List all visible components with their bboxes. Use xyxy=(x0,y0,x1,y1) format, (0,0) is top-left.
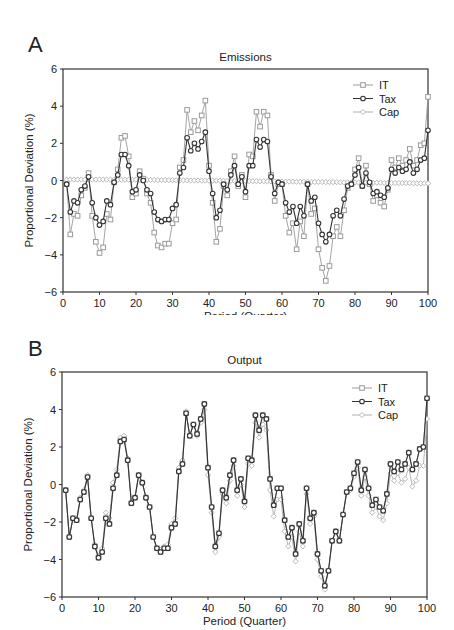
tax-marker xyxy=(370,503,375,508)
tax-marker xyxy=(348,486,353,491)
series-tax xyxy=(63,396,429,588)
y-tick-label: 4 xyxy=(50,404,56,416)
y-tick-label: −4 xyxy=(43,554,56,566)
tax-marker xyxy=(206,465,211,470)
tax-marker xyxy=(421,445,426,450)
cap-marker xyxy=(293,559,298,564)
tax-marker xyxy=(264,417,269,422)
tax-marker xyxy=(111,486,116,491)
tax-marker xyxy=(282,518,287,523)
series-it xyxy=(63,396,429,588)
tax-marker xyxy=(297,522,302,527)
tax-marker xyxy=(268,477,273,482)
tax-marker xyxy=(140,480,145,485)
cap-marker xyxy=(308,521,313,526)
tax-marker xyxy=(403,462,408,467)
tax-marker xyxy=(337,538,342,543)
legend-label-it: IT xyxy=(378,382,388,394)
tax-marker xyxy=(341,512,346,517)
tax-marker xyxy=(169,525,174,530)
tax-marker xyxy=(89,516,94,521)
tax-marker xyxy=(180,462,185,467)
tax-marker xyxy=(308,516,313,521)
tax-marker xyxy=(326,568,331,573)
tax-marker xyxy=(242,499,247,504)
tax-marker xyxy=(330,538,335,543)
tax-marker xyxy=(414,462,419,467)
tax-marker xyxy=(290,525,295,530)
panel-b: B Output−6−4−202460102030405060708090100… xyxy=(0,0,454,630)
tax-marker xyxy=(312,510,317,515)
cap-marker xyxy=(242,504,247,509)
cap-marker xyxy=(421,463,426,468)
tax-marker xyxy=(271,503,276,508)
tax-marker xyxy=(191,422,196,427)
tax-marker xyxy=(315,552,320,557)
legend-label-cap: Cap xyxy=(378,409,398,421)
cap-marker xyxy=(224,501,229,506)
tax-marker xyxy=(173,522,178,527)
cap-marker xyxy=(264,428,269,433)
tax-marker xyxy=(352,471,357,476)
x-tick-label: 90 xyxy=(384,602,396,614)
cap-marker xyxy=(410,484,415,489)
tax-marker xyxy=(301,538,306,543)
tax-marker xyxy=(220,488,225,493)
legend: ITTaxCap xyxy=(352,382,398,421)
tax-marker xyxy=(235,488,240,493)
y-tick-label: 6 xyxy=(50,366,56,378)
tax-marker xyxy=(410,467,415,472)
tax-marker xyxy=(114,473,119,478)
tax-marker xyxy=(195,432,200,437)
tax-marker xyxy=(385,492,390,497)
tax-marker xyxy=(319,568,324,573)
y-tick-label: −6 xyxy=(43,591,56,603)
cap-marker xyxy=(257,435,262,440)
tax-marker xyxy=(363,467,368,472)
tax-marker xyxy=(122,437,127,442)
x-tick-label: 70 xyxy=(311,602,323,614)
tax-marker xyxy=(253,413,258,418)
tax-marker xyxy=(224,495,229,500)
cap-marker xyxy=(235,493,240,498)
tax-marker xyxy=(279,486,284,491)
legend-cap-marker xyxy=(359,412,364,417)
tax-marker xyxy=(333,529,338,534)
cap-marker xyxy=(413,478,418,483)
tax-marker xyxy=(78,497,83,502)
x-tick-label: 60 xyxy=(275,602,287,614)
tax-marker xyxy=(63,488,68,493)
tax-marker xyxy=(366,486,371,491)
tax-marker xyxy=(388,462,393,467)
legend-label-tax: Tax xyxy=(378,396,396,408)
cap-marker xyxy=(271,514,276,519)
cap-marker xyxy=(103,510,108,515)
chart-title: Output xyxy=(227,354,262,366)
x-tick-label: 20 xyxy=(129,602,141,614)
tax-marker xyxy=(151,535,156,540)
tax-marker xyxy=(187,433,192,438)
tax-marker xyxy=(198,417,203,422)
tax-marker xyxy=(377,505,382,510)
cap-marker xyxy=(392,478,397,483)
tax-marker xyxy=(344,490,349,495)
tax-marker xyxy=(399,467,404,472)
legend-it-marker xyxy=(360,386,365,391)
tax-marker xyxy=(155,546,160,551)
tax-marker xyxy=(74,518,79,523)
tax-marker xyxy=(392,469,397,474)
cap-marker xyxy=(227,478,232,483)
tax-marker xyxy=(381,508,386,513)
cap-marker xyxy=(213,549,218,554)
tax-marker xyxy=(396,460,401,465)
tax-marker xyxy=(125,458,130,463)
cap-marker xyxy=(370,510,375,515)
tax-marker xyxy=(260,413,265,418)
y-tick-label: −2 xyxy=(43,516,56,528)
tax-marker xyxy=(231,458,236,463)
legend-tax-marker xyxy=(360,399,365,404)
cap-marker xyxy=(359,493,364,498)
tax-marker xyxy=(107,522,112,527)
tax-marker xyxy=(104,516,109,521)
tax-marker xyxy=(293,552,298,557)
